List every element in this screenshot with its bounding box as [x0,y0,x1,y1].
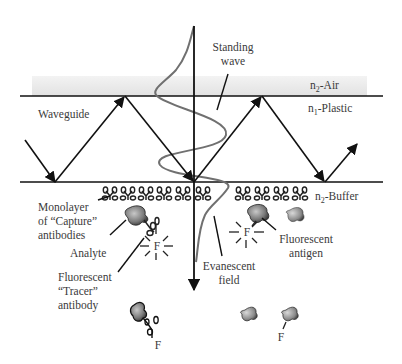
tracer-label-1: Fluorescent [58,271,112,283]
evanescent-label-2: field [218,274,239,286]
leader-evanescent [214,216,222,256]
evanescent-wave-immunoassay-diagram: F F F F Standing wave n2- [0,0,402,364]
waveguide-label: Waveguide [38,108,89,121]
fluorescent-antigen-label-2: antigen [289,247,323,260]
plastic-layer-label: n1-Plastic [308,102,352,117]
free-analyte [241,307,258,321]
unbound-analyte-near-surface [286,207,304,221]
evanescent-label-1: Evanescent [203,260,256,272]
monolayer-label-2: of “Capture” [38,215,97,228]
fluorescent-antigen-label-1: Fluorescent [279,233,333,245]
standing-wave-label-2: wave [221,55,245,67]
bound-fluorescent-antigen: F [229,204,269,248]
bound-analyte-tracer-complex: F [125,206,173,260]
free-tracer-antibody: F [130,303,161,351]
tracer-label-2: “Tracer” [58,285,98,297]
monolayer-label-1: Monolayer [38,201,89,214]
analyte-blob [125,206,148,225]
fluorophore-f-free-antigen: F [278,331,284,343]
monolayer-label-3: antibodies [38,229,86,241]
analyte-label: Analyte [70,247,106,260]
leader-tracer [118,238,144,272]
free-fluorescent-antigen: F [278,307,298,343]
leader-analyte [110,220,126,235]
buffer-layer-label: n2-Buffer [315,190,359,205]
fluorophore-f-bound-antigen: F [244,226,250,238]
standing-wave-label-1: Standing [213,41,254,54]
fluorophore-f-free-tracer: F [155,339,161,351]
capture-antibody-monolayer [102,187,307,200]
fluorophore-f-bound-tracer: F [154,240,160,252]
tracer-label-3: antibody [58,299,98,312]
leader-fluorescent-antigen [262,218,276,230]
standing-wave-curve [155,26,228,262]
